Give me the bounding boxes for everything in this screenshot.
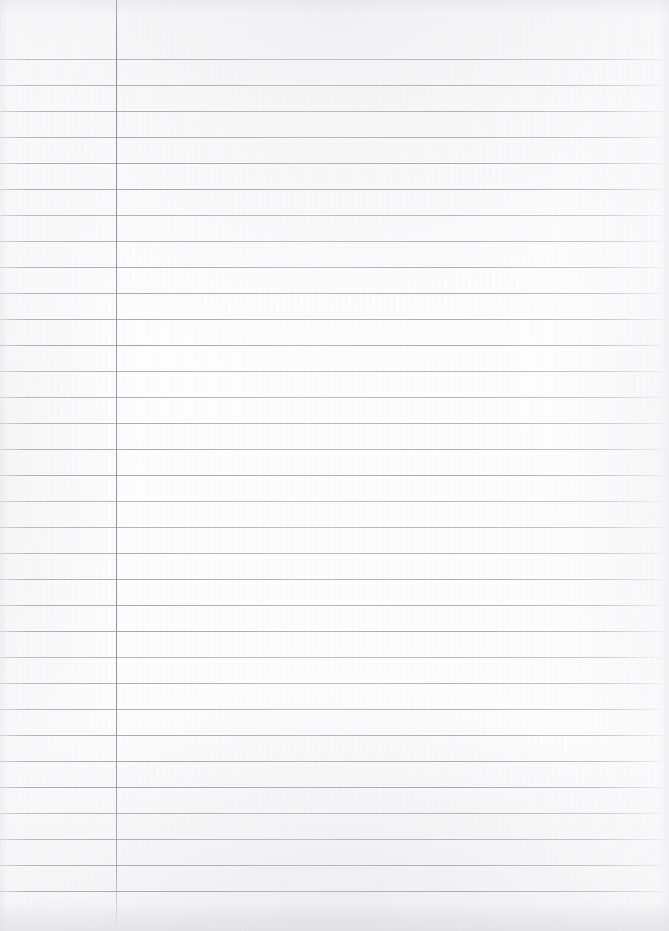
notebook-page <box>0 0 669 931</box>
rule-line <box>0 371 665 372</box>
rule-line <box>0 657 665 658</box>
rule-line <box>0 241 665 242</box>
rule-line <box>0 735 665 736</box>
rule-line <box>0 761 665 762</box>
rule-line <box>0 137 665 138</box>
rule-line <box>0 683 665 684</box>
rule-line <box>0 839 665 840</box>
rule-line <box>0 111 665 112</box>
rule-line <box>0 501 665 502</box>
rule-line <box>0 423 665 424</box>
rule-line <box>0 631 665 632</box>
rule-line <box>0 215 665 216</box>
rule-line <box>0 163 665 164</box>
rule-line <box>0 397 665 398</box>
rule-line <box>0 527 665 528</box>
rule-line <box>0 449 665 450</box>
rule-line <box>0 709 665 710</box>
writing-area[interactable] <box>0 0 669 931</box>
rule-line <box>0 475 665 476</box>
rule-line <box>0 319 665 320</box>
vertical-margin-line <box>116 0 117 925</box>
rule-line <box>0 605 665 606</box>
rule-line <box>0 85 665 86</box>
rule-line <box>0 813 665 814</box>
rule-line <box>0 189 665 190</box>
rule-line <box>0 345 665 346</box>
rule-line <box>0 865 665 866</box>
rule-line <box>0 553 665 554</box>
rule-line <box>0 293 665 294</box>
rule-line <box>0 787 665 788</box>
rule-line <box>0 267 665 268</box>
rule-line <box>0 891 665 892</box>
rule-line <box>0 59 665 60</box>
rule-line <box>0 579 665 580</box>
